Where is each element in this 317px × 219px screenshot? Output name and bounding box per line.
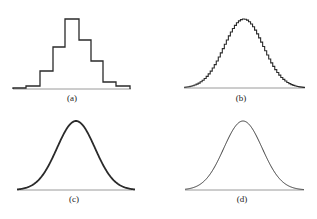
panel-d: (d) (185, 121, 304, 204)
panel-b: (b) (184, 19, 305, 103)
panel-a: (a) (13, 19, 131, 103)
panel-d-bell-curve (185, 121, 304, 190)
panel-c-bell-curve (17, 121, 135, 189)
panel-c: (c) (17, 121, 135, 204)
panel-b-fine-histogram (184, 19, 305, 87)
panel-a-label: (a) (67, 93, 77, 103)
histogram-to-normal-figure: (a) (b) (c) (d) (0, 0, 317, 219)
panel-d-label: (d) (237, 194, 248, 204)
panel-b-label: (b) (236, 93, 247, 103)
panel-a-histogram (13, 19, 130, 89)
panel-c-label: (c) (69, 194, 79, 204)
